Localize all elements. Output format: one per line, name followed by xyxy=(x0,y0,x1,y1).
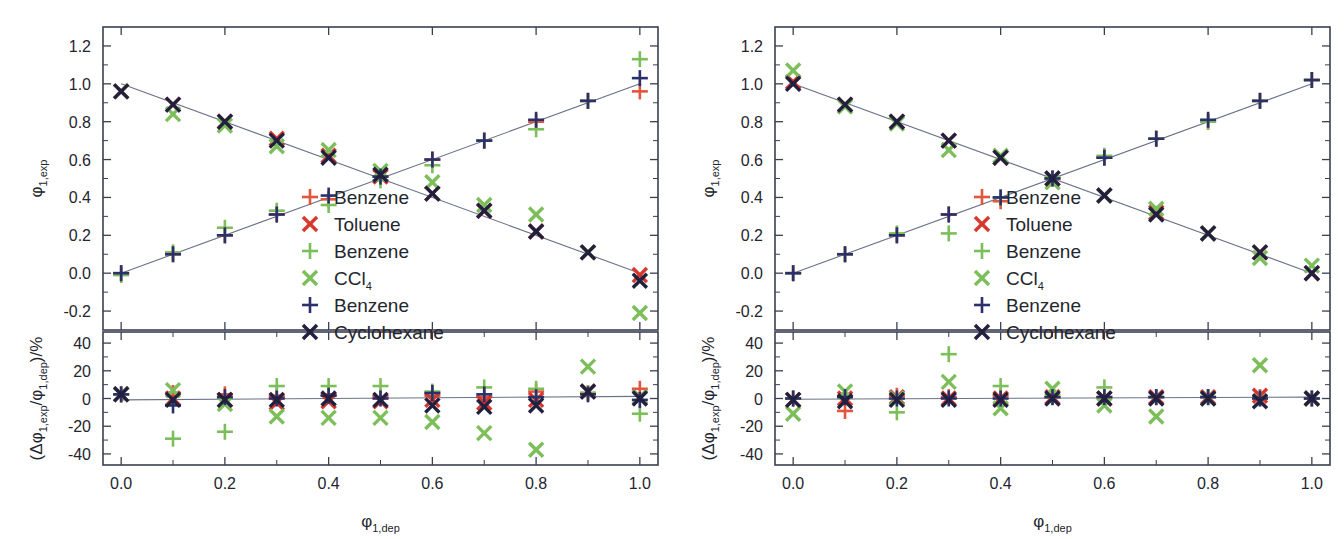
top-scatter-layer xyxy=(113,51,648,320)
x-ticklabel: 0.4 xyxy=(990,475,1012,492)
legend-label: Benzene xyxy=(1006,295,1081,316)
datapoint-Benzene-navy-plus xyxy=(269,206,285,222)
residual-CCl4-green-cross xyxy=(942,375,956,389)
legend-toluene[interactable]: Toluene xyxy=(303,214,401,235)
legend-benzene-red[interactable]: Benzene xyxy=(974,187,1081,208)
datapoint-CCl4-green-cross xyxy=(529,207,543,221)
legend-marker-icon xyxy=(975,217,989,231)
datapoint-Benzene-navy-plus xyxy=(1148,131,1164,147)
y-ticklabel-bottom: 40 xyxy=(73,335,91,352)
legend-marker-icon xyxy=(303,271,317,285)
datapoint-Benzene-navy-plus xyxy=(217,227,233,243)
datapoint-Benzene-navy-plus xyxy=(632,70,648,86)
y-ticklabel-top: 0.8 xyxy=(69,114,91,131)
datapoint-Benzene-navy-plus xyxy=(941,206,957,222)
legend-benzene-navy[interactable]: Benzene xyxy=(974,295,1081,316)
y-ticklabel-bottom: -40 xyxy=(68,446,91,463)
residual-CCl4-green-cross xyxy=(425,415,439,429)
residual-Benzene-green-plus xyxy=(632,406,648,422)
x-ticklabel: 0.2 xyxy=(886,475,908,492)
datapoint-Benzene-navy-plus xyxy=(580,93,596,109)
y-ticklabel-top: 0.0 xyxy=(741,265,763,282)
panel-group-left: 1.21.00.80.60.40.20.0-0.240200-20-400.00… xyxy=(0,0,672,539)
residual-Benzene-green-plus xyxy=(217,424,233,440)
x-ticklabel: 0.8 xyxy=(525,475,547,492)
datapoint-CCl4-green-cross xyxy=(633,306,647,320)
legend-label: Toluene xyxy=(334,214,401,235)
datapoint-Benzene-navy-plus xyxy=(1200,112,1216,128)
y-axis-title-top: φ1,exp xyxy=(699,160,721,198)
y-ticklabel-top: 0.2 xyxy=(69,227,91,244)
legend-label: Cyclohexane xyxy=(334,322,444,343)
legend-marker-icon xyxy=(975,271,989,285)
legend-label: Benzene xyxy=(334,295,409,316)
bottom-scatter-layer xyxy=(113,360,648,457)
residual-CCl4-green-cross xyxy=(270,409,284,423)
legend-marker-icon xyxy=(302,297,318,313)
legend-ccl4[interactable]: CCl4 xyxy=(975,268,1044,292)
y-ticklabel-top: 0.8 xyxy=(741,114,763,131)
residual-CCl4-green-cross xyxy=(529,443,543,457)
legend-benzene-red[interactable]: Benzene xyxy=(302,187,409,208)
datapoint-Benzene-navy-plus xyxy=(476,133,492,149)
datapoint-Cyclohexane-navy-cross xyxy=(114,84,128,98)
datapoint-Benzene-green-plus xyxy=(941,225,957,241)
svg-text:φ1,exp: φ1,exp xyxy=(699,160,721,198)
svg-text:(Δφ1,exp/φ1,dep)/%: (Δφ1,exp/φ1,dep)/% xyxy=(27,337,49,461)
legend-benzene-green[interactable]: Benzene xyxy=(302,241,409,262)
residual-CCl4-green-cross xyxy=(477,426,491,440)
x-ticklabel: 0.0 xyxy=(110,475,132,492)
legend-toluene[interactable]: Toluene xyxy=(975,214,1073,235)
y-ticklabel-bottom: 0 xyxy=(82,391,91,408)
x-ticklabel: 0.2 xyxy=(214,475,236,492)
datapoint-Benzene-navy-plus xyxy=(1252,93,1268,109)
svg-text:(Δφ1,exp/φ1,dep)/%: (Δφ1,exp/φ1,dep)/% xyxy=(699,337,721,461)
legend-benzene-navy[interactable]: Benzene xyxy=(302,295,409,316)
residual-CCl4-green-cross xyxy=(373,411,387,425)
x-ticklabel: 1.0 xyxy=(629,475,651,492)
datapoint-Cyclohexane-navy-cross xyxy=(425,187,439,201)
y-ticklabel-top: 1.2 xyxy=(741,38,763,55)
legend-marker-icon xyxy=(974,297,990,313)
x-ticklabel: 0.0 xyxy=(782,475,804,492)
datapoint-Cyclohexane-navy-cross xyxy=(529,225,543,239)
residual-CCl4-green-cross xyxy=(581,360,595,374)
plot-left: 1.21.00.80.60.40.20.0-0.240200-20-400.00… xyxy=(0,0,672,539)
legend-label: CCl4 xyxy=(334,268,372,292)
legend-benzene-green[interactable]: Benzene xyxy=(974,241,1081,262)
plot-right: 1.21.00.80.60.40.20.0-0.240200-20-400.00… xyxy=(672,0,1344,539)
residual-Benzene-navy-plus xyxy=(580,386,596,402)
datapoint-CCl4-green-cross xyxy=(786,64,800,78)
legend-label: Benzene xyxy=(334,187,409,208)
legend-ccl4[interactable]: CCl4 xyxy=(303,268,372,292)
y-ticklabel-bottom: 0 xyxy=(754,391,763,408)
y-axis-title-bottom: (Δφ1,exp/φ1,dep)/% xyxy=(699,337,721,461)
y-ticklabel-top: 0.4 xyxy=(741,189,763,206)
y-ticklabel-top: 0.0 xyxy=(69,265,91,282)
y-ticklabel-top: 0.6 xyxy=(69,152,91,169)
datapoint-Benzene-green-plus xyxy=(632,51,648,67)
x-axis-title: φ1,dep xyxy=(1033,512,1072,534)
y-ticklabel-bottom: 40 xyxy=(745,335,763,352)
legend-label: Toluene xyxy=(1006,214,1073,235)
legend-marker-icon xyxy=(974,243,990,259)
datapoint-Benzene-navy-plus xyxy=(1096,150,1112,166)
y-ticklabel-bottom: -20 xyxy=(68,418,91,435)
y-ticklabel-bottom: 20 xyxy=(745,363,763,380)
y-ticklabel-top: -0.2 xyxy=(735,303,763,320)
legend-label: Benzene xyxy=(334,241,409,262)
y-ticklabel-top: -0.2 xyxy=(63,303,91,320)
x-ticklabel: 0.6 xyxy=(1093,475,1115,492)
datapoint-Cyclohexane-navy-cross xyxy=(890,115,904,129)
x-ticklabel: 0.4 xyxy=(318,475,340,492)
datapoint-Benzene-navy-plus xyxy=(837,246,853,262)
x-ticklabel: 1.0 xyxy=(1301,475,1323,492)
figure-root: 1.21.00.80.60.40.20.0-0.240200-20-400.00… xyxy=(0,0,1344,539)
datapoint-Cyclohexane-navy-cross xyxy=(786,77,800,91)
datapoint-Benzene-navy-plus xyxy=(785,265,801,281)
y-ticklabel-bottom: -40 xyxy=(740,446,763,463)
y-ticklabel-top: 1.0 xyxy=(741,76,763,93)
y-ticklabel-bottom: -20 xyxy=(740,418,763,435)
y-axis-title-top: φ1,exp xyxy=(27,160,49,198)
legend-label: Benzene xyxy=(1006,187,1081,208)
